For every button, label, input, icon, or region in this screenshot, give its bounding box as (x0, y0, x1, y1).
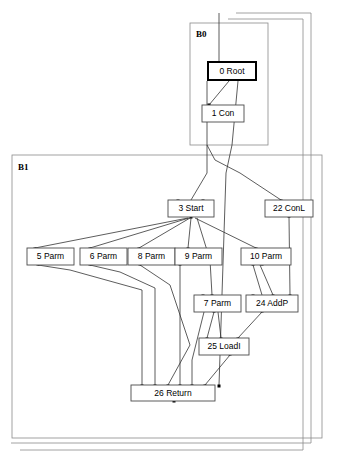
node-label-n9: 9 Parm (185, 251, 212, 261)
edge-n22-to-root-chain (207, 145, 281, 200)
node-label-n8: 8 Parm (138, 251, 165, 261)
node-n10[interactable]: 10 Parm (241, 248, 291, 265)
edge-n26-to-n25 (205, 355, 230, 385)
region-label-b0: B0 (196, 29, 207, 39)
port-marker (218, 385, 221, 388)
node-n9[interactable]: 9 Parm (175, 248, 222, 265)
region-group: B0B1 (12, 23, 322, 438)
edge-n26-to-n6 (90, 265, 155, 385)
ideal-graph-svg: B0B1 0 Root1 Con3 Start22 ConL5 Parm6 Pa… (0, 0, 357, 458)
port-group (34, 62, 292, 403)
node-label-n24: 24 AddP (256, 298, 288, 308)
frame-outer-1 (11, 13, 311, 443)
node-label-n25: 25 LoadI (207, 341, 240, 351)
edge-n24-to-n10 (253, 265, 262, 295)
edge-n26-to-n8 (140, 265, 190, 385)
node-label-n7: 7 Parm (204, 298, 231, 308)
region-label-b1: B1 (18, 162, 29, 172)
edge-n9-to-n3 (188, 218, 191, 248)
node-n7[interactable]: 7 Parm (194, 295, 241, 312)
node-n24[interactable]: 24 AddP (246, 295, 298, 312)
region-box-b0 (190, 23, 268, 145)
node-n8[interactable]: 8 Parm (128, 248, 175, 265)
node-label-n22: 22 ConL (273, 203, 305, 213)
edge-n25-to-n7b (218, 312, 221, 338)
node-group: 0 Root1 Con3 Start22 ConL5 Parm6 Parm8 P… (27, 62, 313, 401)
node-label-n0: 0 Root (219, 66, 245, 76)
outer-frame-group (11, 13, 311, 450)
node-n25[interactable]: 25 LoadI (199, 338, 249, 355)
edge-n10-to-n3 (195, 218, 256, 248)
diagram-canvas: B0B1 0 Root1 Con3 Start22 ConL5 Parm6 Pa… (0, 0, 357, 458)
node-n3[interactable]: 3 Start (168, 200, 214, 217)
node-label-n3: 3 Start (178, 203, 204, 213)
edge-n24-to-n10b (260, 265, 273, 295)
node-label-n6: 6 Parm (90, 251, 117, 261)
node-label-n5: 5 Parm (37, 251, 64, 261)
edge-n26-to-n5 (38, 265, 142, 385)
node-n22[interactable]: 22 ConL (265, 200, 313, 217)
edge-n1-to-n0 (209, 81, 229, 105)
node-n26[interactable]: 26 Return (131, 385, 215, 401)
node-n6[interactable]: 6 Parm (80, 248, 127, 265)
node-n1[interactable]: 1 Con (202, 105, 244, 122)
node-label-n10: 10 Parm (250, 251, 282, 261)
edge-n6-to-n3 (90, 218, 189, 248)
node-label-n26: 26 Return (154, 388, 192, 398)
node-label-n1: 1 Con (212, 108, 235, 118)
edge-n3-to-root-chain (191, 81, 207, 200)
node-n0[interactable]: 0 Root (208, 62, 256, 80)
edge-n25-to-n24 (238, 312, 262, 338)
edge-n25-to-n7 (207, 312, 214, 338)
node-n5[interactable]: 5 Parm (27, 248, 74, 265)
